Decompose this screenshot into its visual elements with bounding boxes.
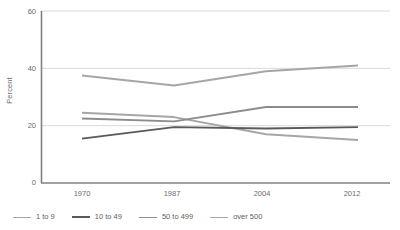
legend-swatch-50-to-499 (139, 217, 157, 218)
axes (41, 11, 390, 183)
legend-label-1-to-9: 1 to 9 (36, 213, 55, 221)
legend-swatch-10-to-49 (72, 216, 90, 218)
x-tick-2004: 2004 (240, 190, 284, 198)
y-tick-60: 60 (14, 8, 36, 16)
series-line (82, 113, 358, 140)
line-chart: Percent 60 40 20 0 1970 1987 2004 2012 1… (0, 0, 400, 230)
y-tick-20: 20 (14, 122, 36, 130)
plot-area: Percent 60 40 20 0 1970 1987 2004 2012 (0, 0, 400, 200)
plot-svg (0, 0, 400, 200)
y-tick-40: 40 (14, 65, 36, 73)
legend-swatch-1-to-9 (13, 217, 31, 218)
gridlines (41, 11, 390, 126)
legend-item-over-500[interactable]: over 500 (210, 213, 262, 221)
x-tick-1987: 1987 (150, 190, 194, 198)
y-axis-title: Percent (5, 63, 14, 119)
legend-label-10-to-49: 10 to 49 (95, 213, 122, 221)
legend-swatch-over-500 (210, 217, 228, 218)
legend-label-over-500: over 500 (233, 213, 262, 221)
x-tick-2012: 2012 (330, 190, 374, 198)
y-tick-0: 0 (14, 179, 36, 187)
legend-label-50-to-499: 50 to 499 (162, 213, 193, 221)
legend-item-10-to-49[interactable]: 10 to 49 (72, 213, 122, 221)
x-tick-1970: 1970 (60, 190, 104, 198)
data-series-layer (82, 65, 358, 140)
legend-item-1-to-9[interactable]: 1 to 9 (13, 213, 55, 221)
legend-item-50-to-499[interactable]: 50 to 499 (139, 213, 193, 221)
chart-legend: 1 to 9 10 to 49 50 to 499 over 500 (0, 208, 400, 226)
